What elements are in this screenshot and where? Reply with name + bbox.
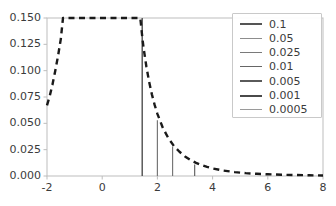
legend-item-label: 0.0005 [269, 104, 308, 115]
x-tick-label: 8 [303, 181, 336, 194]
y-tick-label: 0.125 [10, 37, 42, 50]
legend-item-label: 0.025 [269, 47, 301, 58]
y-tick-label: 0.025 [10, 143, 42, 156]
legend-item[interactable]: 0.025 [233, 46, 323, 60]
y-tick-label: 0.050 [10, 116, 42, 129]
legend-item[interactable]: 0.1 [233, 17, 323, 31]
legend-line-swatch [240, 23, 262, 25]
legend-item-label: 0.1 [269, 19, 287, 30]
x-tick-label: 6 [248, 181, 288, 194]
legend-item-label: 0.01 [269, 61, 294, 72]
y-tick-label: 0.150 [10, 11, 42, 24]
legend-line-swatch [240, 66, 262, 67]
x-tick-label: 4 [193, 181, 233, 194]
y-tick-label: 0.100 [10, 64, 42, 77]
stem-lines [142, 18, 194, 176]
legend-line-swatch [240, 109, 262, 110]
legend-line-swatch [240, 80, 262, 82]
legend-item[interactable]: 0.05 [233, 31, 323, 45]
legend-item[interactable]: 0.0005 [233, 103, 323, 117]
legend[interactable]: 0.10.050.0250.010.0050.0010.0005 [232, 13, 322, 118]
x-tick-label: 2 [137, 181, 177, 194]
x-tick-marks [47, 176, 323, 180]
figure: 0.0000.0250.0500.0750.1000.1250.150 -202… [0, 0, 336, 206]
legend-line-swatch [240, 38, 262, 39]
x-tick-label: 0 [82, 181, 122, 194]
legend-item[interactable]: 0.001 [233, 89, 323, 103]
legend-item[interactable]: 0.01 [233, 60, 323, 74]
y-tick-marks [44, 18, 48, 176]
legend-line-swatch [240, 95, 262, 97]
y-tick-label: 0.075 [10, 90, 42, 103]
legend-item-label: 0.005 [269, 76, 301, 87]
legend-item-label: 0.001 [269, 90, 301, 101]
legend-item-label: 0.05 [269, 33, 294, 44]
legend-item[interactable]: 0.005 [233, 74, 323, 88]
legend-line-swatch [240, 52, 262, 53]
x-tick-label: -2 [27, 181, 67, 194]
